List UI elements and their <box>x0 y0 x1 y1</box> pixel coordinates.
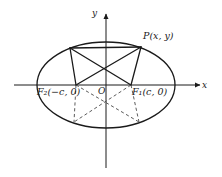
segment-Pleft-to-P <box>70 47 141 48</box>
point-p-label: P(x, y) <box>143 31 174 41</box>
segment-Pleft-to-F2 <box>70 48 76 85</box>
segment-F2-to-Qright <box>76 85 139 122</box>
ellipse-figure: x y O P(x, y) F₁(c, 0) F₂(−c, 0) <box>0 0 222 177</box>
x-axis-label: x <box>202 81 207 90</box>
origin-label: O <box>98 87 105 96</box>
ellipse-diagram-svg <box>0 0 222 177</box>
focus-f2-label: F₂(−c, 0) <box>37 87 80 97</box>
segment-Pleft-to-F1 <box>70 48 131 85</box>
y-axis-label: y <box>92 9 97 18</box>
focus-f1-label: F₁(c, 0) <box>132 87 167 97</box>
segment-P-to-F2 <box>76 47 141 85</box>
